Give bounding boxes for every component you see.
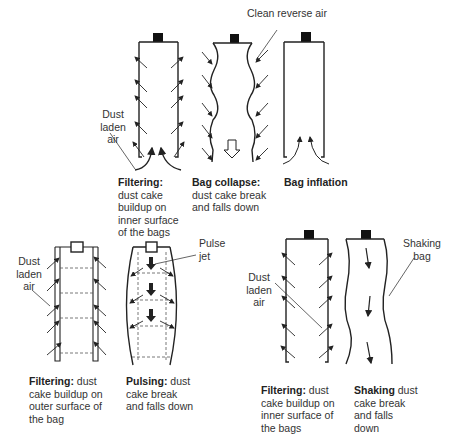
caption-filtering-inner: Filtering: dust cake buildup on inner su… <box>118 176 184 239</box>
filtering-bag-shaker <box>275 230 333 362</box>
caption-bag-collapse: Bag collapse: dust cake break and falls … <box>192 176 282 214</box>
collapsing-bag <box>202 30 277 162</box>
caption-filtering-shaker: Filtering: dust cake buildup on inner su… <box>261 384 341 434</box>
label-pulse-jet: Pulse jet <box>199 237 229 262</box>
caption-filtering-outer: Filtering: dust cake buildup on outer su… <box>29 375 113 425</box>
label-dust-laden-air-shaker: Dust laden air <box>244 271 274 309</box>
label-dust-laden-air-pulse: Dust laden air <box>14 255 44 293</box>
caption-shaking: Shaking dust cake break and falls down <box>354 384 420 434</box>
inflating-bag <box>283 32 329 164</box>
caption-bag-inflation: Bag inflation <box>284 176 364 189</box>
caption-pulsing: Pulsing: dust cake break and falls down <box>126 375 194 413</box>
pulsing-bag <box>127 242 197 365</box>
label-shaking-bag: Shaking bag <box>402 237 442 262</box>
filtering-bag-inner <box>110 33 184 170</box>
label-clean-reverse-air: Clean reverse air <box>247 7 327 20</box>
label-dust-laden-air-top: Dust laden air <box>97 108 129 146</box>
